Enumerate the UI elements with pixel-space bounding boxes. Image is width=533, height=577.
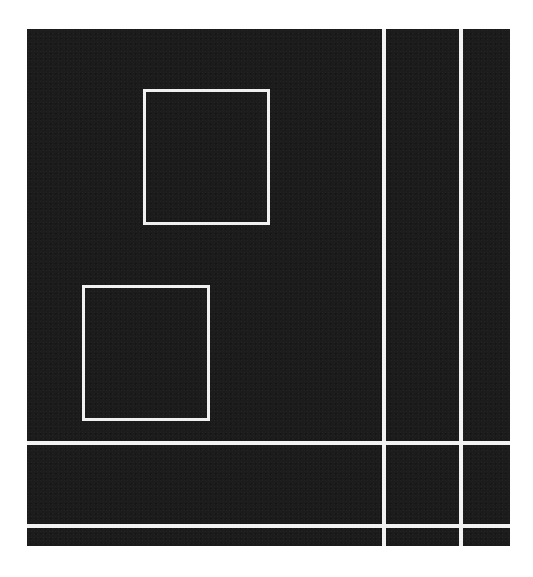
artwork-canvas bbox=[27, 29, 510, 546]
vertical-line-1 bbox=[382, 29, 386, 546]
lower-square-outline bbox=[82, 285, 210, 421]
upper-square-outline bbox=[143, 89, 270, 225]
vertical-line-2 bbox=[459, 29, 463, 546]
horizontal-line-2 bbox=[27, 524, 510, 528]
horizontal-line-1 bbox=[27, 441, 510, 445]
